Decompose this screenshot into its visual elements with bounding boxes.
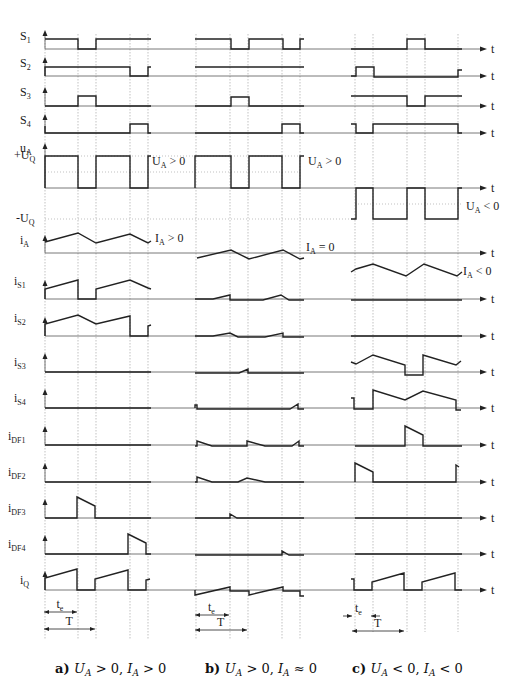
axis-label-t: t	[491, 126, 495, 140]
waveform-iS1-a	[45, 280, 151, 299]
axis-arrow-icon	[480, 516, 487, 521]
waveform-iDF3-b	[195, 514, 304, 518]
waveform-S4-c	[351, 124, 462, 133]
annotation: UA < 0	[466, 199, 499, 215]
row-label-iDF1: iDF1	[8, 429, 26, 445]
y-arrow-icon	[43, 353, 48, 359]
waveform-iDF4-a	[45, 534, 151, 554]
waveform-S4-a	[45, 124, 151, 133]
row-label-S3: S3	[20, 85, 31, 101]
waveform-iDF1-c	[355, 426, 462, 446]
axis-arrow-icon	[480, 406, 487, 411]
row-label-iDF4: iDF4	[8, 537, 26, 553]
y-arrow-icon	[43, 535, 48, 541]
row-label-iS2: iS2	[14, 311, 26, 327]
y-arrow-icon	[43, 389, 48, 395]
row-label-iDF3: iDF3	[8, 501, 26, 517]
waveform-iA-a	[45, 233, 151, 243]
period-c-label: T	[374, 616, 382, 630]
axis-arrow-icon	[480, 552, 487, 557]
row-label-iS4: iS4	[14, 391, 26, 407]
axis-arrow-icon	[480, 251, 487, 256]
annotation: UA > 0	[308, 154, 341, 170]
waveform-iA-c	[351, 264, 462, 276]
waveform-uA-c	[351, 188, 462, 219]
waveform-S2-a	[45, 67, 151, 76]
row-label-iA: iA	[20, 233, 29, 249]
annotations: UA > 0UA > 0UA < 0IA > 0IA = 0IA < 0	[152, 154, 499, 280]
waveforms	[45, 39, 462, 596]
waveform-S4-b	[195, 124, 304, 133]
waveform-uA-b	[195, 156, 304, 188]
y-arrow-icon	[43, 571, 48, 577]
axis-arrow-icon	[480, 370, 487, 375]
te-c-label: te	[355, 601, 362, 617]
axis-arrow-icon	[480, 104, 487, 109]
y-arrow-icon	[43, 280, 48, 286]
minus-uq-label: -UQ	[16, 211, 35, 227]
annotation: UA > 0	[152, 154, 185, 170]
axis-label-t: t	[491, 329, 495, 343]
waveform-S1-a	[45, 39, 151, 49]
row-label-S2: S2	[20, 56, 31, 72]
row-label-S1: S1	[20, 29, 31, 45]
waveform-S3-c	[351, 96, 462, 106]
panel-captions: a) UA > 0, IA > 0b) UA > 0, IA ≈ 0c) UA …	[55, 661, 463, 678]
axis-arrow-icon	[480, 334, 487, 339]
axis-label-t: t	[491, 246, 495, 260]
waveform-iDF2-b	[195, 477, 304, 482]
caption-panel-b: b) UA > 0, IA ≈ 0	[205, 661, 317, 678]
axis-label-t: t	[491, 292, 495, 306]
annotation: IA < 0	[463, 264, 492, 280]
axis-label-t: t	[491, 583, 495, 597]
waveform-iDF4-b	[195, 551, 304, 555]
waveform-S2-c	[351, 67, 462, 77]
arrow-icon	[224, 613, 229, 617]
waveform-iS2-b	[195, 333, 304, 337]
time-axes: ttttttttttttttt	[43, 30, 496, 597]
axis-arrow-icon	[480, 480, 487, 485]
y-arrow-icon	[43, 499, 48, 505]
row-label-iS3: iS3	[14, 355, 26, 371]
caption-panel-c: c) UA < 0, IA < 0	[352, 661, 463, 678]
y-arrow-icon	[43, 57, 48, 63]
waveform-iS3-b	[195, 369, 304, 373]
time-markers: teTteTteT	[44, 597, 404, 633]
axis-arrow-icon	[480, 443, 487, 448]
waveform-iDF3-a	[45, 497, 151, 518]
axis-label-t: t	[491, 511, 495, 525]
arrow-icon	[399, 629, 404, 633]
row-label-iDF2: iDF2	[8, 465, 26, 481]
te-a-label: te	[57, 597, 64, 613]
waveform-S1-b	[195, 39, 304, 49]
axis-label-t: t	[491, 401, 495, 415]
axis-label-t: t	[491, 475, 495, 489]
axis-arrow-icon	[480, 186, 487, 191]
axis-arrow-icon	[480, 297, 487, 302]
waveform-S3-a	[45, 96, 151, 106]
axis-arrow-icon	[480, 74, 487, 79]
y-arrow-icon	[43, 235, 48, 241]
period-b-label: T	[217, 615, 225, 629]
y-arrow-icon	[43, 426, 48, 432]
axis-label-t: t	[491, 547, 495, 561]
axis-arrow-icon	[480, 588, 487, 593]
arrow-icon	[44, 627, 49, 631]
axis-label-t: t	[491, 99, 495, 113]
row-labels: S1S2S3S4uAiAiS1iS2iS3iS4iDF1iDF2iDF3iDF4…	[8, 29, 35, 589]
caption-panel-a: a) UA > 0, IA > 0	[55, 661, 166, 678]
axis-label-t: t	[491, 181, 495, 195]
y-arrow-icon	[43, 87, 48, 93]
annotation: IA > 0	[155, 231, 184, 247]
axis-label-t: t	[491, 365, 495, 379]
axis-arrow-icon	[480, 47, 487, 52]
row-label-iQ: iQ	[20, 573, 29, 589]
period-a-label: T	[66, 614, 74, 628]
waveform-iQ-c	[351, 573, 462, 590]
row-label-iS1: iS1	[14, 274, 26, 290]
axis-label-t: t	[491, 438, 495, 452]
arrow-icon	[242, 628, 247, 632]
te-b-label: te	[208, 600, 215, 616]
waveform-S3-b	[195, 97, 304, 106]
axis-label-t: t	[491, 69, 495, 83]
